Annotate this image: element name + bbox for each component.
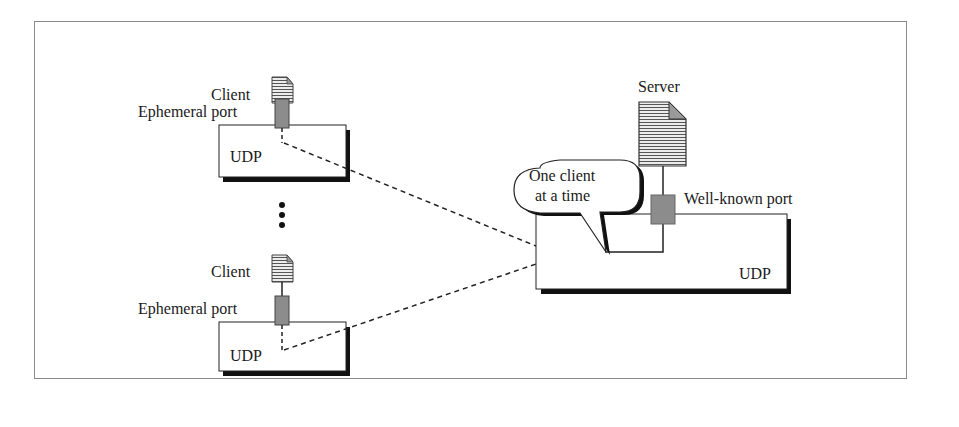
well-known-port-icon — [651, 195, 675, 224]
ellipsis-icon — [279, 202, 285, 228]
server-port-label: Well-known port — [684, 191, 792, 207]
client-2-udp-label: UDP — [230, 348, 262, 364]
diagram-graphics — [0, 0, 959, 427]
callout-line-1: One client — [529, 168, 595, 184]
diagram-canvas: Client Ephemeral port UDP Client Ephemer… — [0, 0, 959, 427]
client-2-label: Client — [211, 264, 250, 280]
client-1-port-label: Ephemeral port — [138, 104, 237, 120]
document-icon — [272, 255, 293, 282]
client-1-group — [219, 77, 536, 246]
client-1-label: Client — [211, 87, 250, 103]
server-document-icon — [639, 102, 686, 166]
server-label: Server — [638, 79, 680, 95]
link-client-1-server — [284, 143, 536, 246]
callout-line-2: at a time — [535, 188, 590, 204]
ephemeral-port-icon — [275, 99, 289, 128]
client-2-port-label: Ephemeral port — [138, 301, 237, 317]
ephemeral-port-icon — [275, 296, 289, 325]
client-2-group — [219, 255, 536, 376]
client-1-udp-label: UDP — [230, 149, 262, 165]
link-client-2-server — [284, 264, 536, 350]
server-udp-label: UDP — [739, 266, 771, 282]
